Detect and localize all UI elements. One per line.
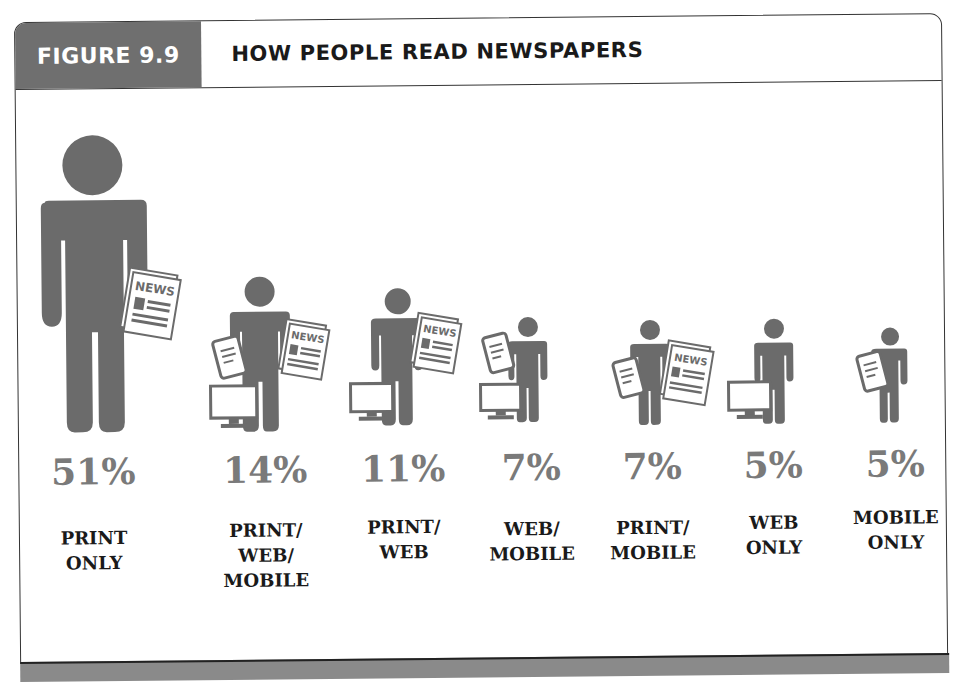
percent-mobile-only: 5%	[825, 442, 957, 485]
tablet-icon	[212, 336, 247, 379]
label-mobile-only: MOBILE ONLY	[826, 504, 957, 555]
figure-frame: FIGURE 9.9 HOW PEOPLE READ NEWSPAPERS NE…	[14, 13, 951, 686]
percent-print-only: 51%	[23, 450, 163, 493]
person-icon-print-mobile: NEWS	[610, 318, 731, 429]
figure-header: FIGURE 9.9 HOW PEOPLE READ NEWSPAPERS	[15, 14, 942, 90]
percent-print-web: 11%	[333, 447, 473, 490]
person-icon-print-web-mobile: NEWS	[207, 275, 349, 436]
person-icon-print-only: NEWS	[34, 131, 197, 433]
person-icon-web-only	[726, 317, 807, 428]
label-print-web-mobile: PRINT/ WEB/ MOBILE	[196, 517, 337, 593]
label-print-web: PRINT/ WEB	[334, 514, 474, 565]
newspaper-icon: NEWS	[278, 319, 330, 379]
percent-print-mobile: 7%	[582, 444, 722, 487]
label-web-mobile: WEB/ MOBILE	[462, 515, 602, 566]
label-print-only: PRINT ONLY	[24, 525, 164, 576]
figure-title: HOW PEOPLE READ NEWSPAPERS	[231, 17, 644, 87]
person-icon-print-web: NEWS	[348, 287, 479, 428]
monitor-icon	[481, 384, 521, 419]
figure-box: FIGURE 9.9 HOW PEOPLE READ NEWSPAPERS NE…	[14, 13, 948, 664]
label-print-mobile: PRINT/ MOBILE	[583, 514, 723, 565]
label-web-only: WEB ONLY	[704, 509, 844, 560]
percent-web-only: 5%	[703, 443, 843, 486]
newspaper-icon: NEWS	[410, 313, 462, 373]
newspaper-icon: NEWS	[659, 340, 714, 405]
percent-web-mobile: 7%	[461, 445, 601, 488]
person-icon-mobile-only	[854, 326, 915, 427]
figure-number: FIGURE 9.9	[15, 21, 202, 89]
person-icon-web-mobile	[478, 316, 569, 427]
newspaper-icon: NEWS	[120, 268, 182, 340]
tablet-icon	[482, 332, 514, 373]
percent-print-web-mobile: 14%	[195, 448, 335, 491]
